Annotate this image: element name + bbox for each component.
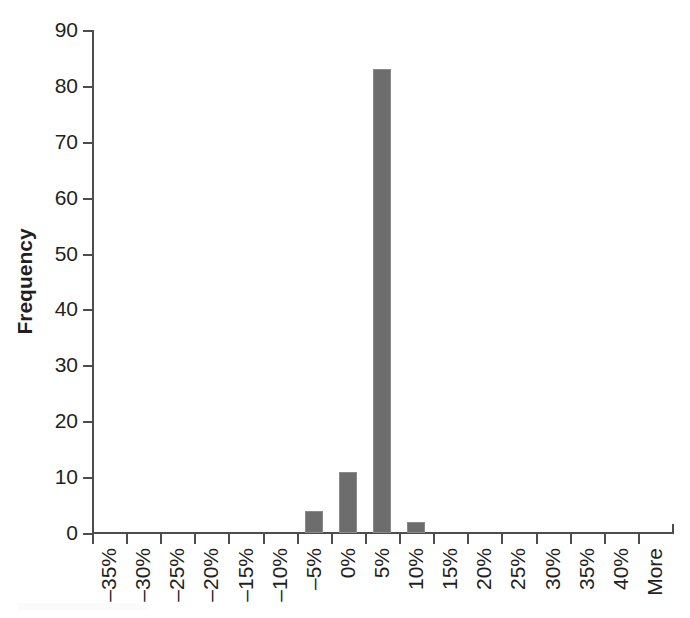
y-tick-label: 10 — [55, 464, 78, 490]
y-tick-mark — [83, 421, 92, 423]
x-tick-label: –25% — [162, 548, 192, 618]
x-tick-mark — [501, 534, 503, 544]
y-tick-label: 60 — [55, 185, 78, 211]
y-tick-mark — [83, 365, 92, 367]
x-tick-label: –20% — [196, 548, 226, 618]
y-axis-title: Frequency — [8, 30, 42, 533]
x-tick-label: 35% — [572, 548, 602, 618]
y-tick-mark — [83, 477, 92, 479]
x-tick-mark — [604, 534, 606, 544]
x-tick-label: 0% — [333, 548, 363, 618]
bars-layer — [92, 30, 672, 533]
x-tick-mark — [536, 534, 538, 544]
bar — [373, 69, 391, 533]
scan-artifact — [18, 603, 148, 610]
x-tick-mark — [126, 534, 128, 544]
y-tick-mark — [83, 142, 92, 144]
y-tick-mark — [83, 309, 92, 311]
y-tick-label: 90 — [55, 17, 78, 43]
y-tick-mark — [83, 533, 92, 535]
y-tick-label: 20 — [55, 408, 78, 434]
x-tick-mark — [228, 534, 230, 544]
x-tick-mark — [570, 534, 572, 544]
y-tick-label: 30 — [55, 352, 78, 378]
x-tick-label: –15% — [231, 548, 261, 618]
x-tick-label: –5% — [299, 548, 329, 618]
y-tick-label: 0 — [66, 520, 78, 546]
x-tick-mark — [194, 534, 196, 544]
x-tick-mark — [263, 534, 265, 544]
x-tick-mark — [433, 534, 435, 544]
x-tick-label: 25% — [503, 548, 533, 618]
bar — [339, 472, 357, 533]
y-tick-label: 80 — [55, 73, 78, 99]
x-tick-label: 40% — [606, 548, 636, 618]
x-tick-label: 20% — [469, 548, 499, 618]
y-tick-mark — [83, 198, 92, 200]
y-tick-label: 50 — [55, 241, 78, 267]
x-tick-mark — [331, 534, 333, 544]
x-tick-label: 10% — [401, 548, 431, 618]
y-tick-mark — [83, 30, 92, 32]
y-tick-label: 70 — [55, 129, 78, 155]
bar — [305, 511, 323, 533]
x-tick-mark — [672, 524, 674, 534]
x-tick-label: 15% — [435, 548, 465, 618]
x-tick-label: 5% — [367, 548, 397, 618]
x-tick-mark — [638, 534, 640, 544]
x-tick-label: More — [640, 548, 670, 618]
x-tick-label: –10% — [265, 548, 295, 618]
x-tick-mark — [467, 534, 469, 544]
y-tick-mark — [83, 86, 92, 88]
bar — [407, 522, 425, 533]
x-tick-mark — [297, 534, 299, 544]
y-tick-label: 40 — [55, 296, 78, 322]
x-tick-label: 30% — [538, 548, 568, 618]
x-tick-mark — [92, 534, 94, 544]
histogram-chart: Frequency 0102030405060708090 –35%–30%–2… — [0, 0, 690, 618]
y-tick-mark — [83, 254, 92, 256]
x-tick-mark — [365, 534, 367, 544]
x-tick-mark — [160, 534, 162, 544]
x-tick-mark — [399, 534, 401, 544]
